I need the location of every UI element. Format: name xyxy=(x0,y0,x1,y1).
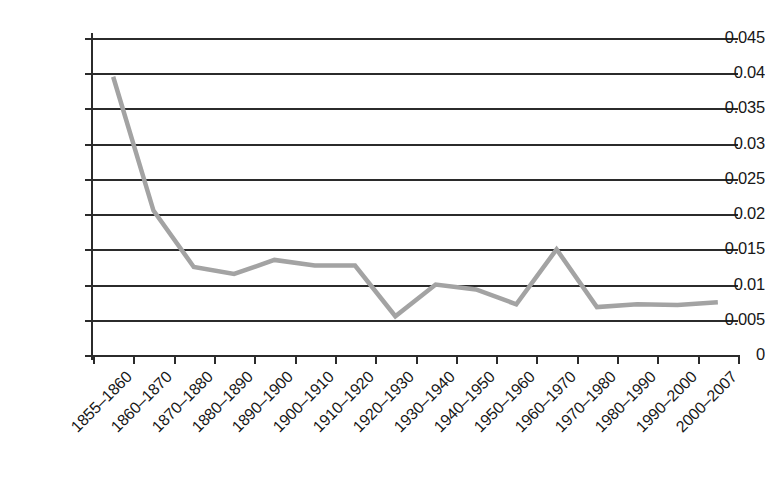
y-axis-line xyxy=(91,33,93,360)
x-tick-mark xyxy=(698,355,700,364)
y-tick-mark xyxy=(85,214,93,216)
gridline-0.015 xyxy=(93,249,738,251)
x-tick-mark xyxy=(214,355,216,364)
y-tick-label: 0.04 xyxy=(689,64,765,81)
gridline-0.005 xyxy=(93,320,738,322)
x-tick-mark xyxy=(174,355,176,364)
y-tick-label: 0.02 xyxy=(689,205,765,222)
y-tick-label: 0.01 xyxy=(689,276,765,293)
gridline-0.04 xyxy=(93,73,738,75)
x-tick-mark xyxy=(577,355,579,364)
x-tick-mark xyxy=(536,355,538,364)
y-tick-mark xyxy=(85,73,93,75)
y-tick-label: 0.035 xyxy=(689,99,765,116)
gridline-0.025 xyxy=(93,179,738,181)
gridline-0.02 xyxy=(93,214,738,216)
x-tick-mark xyxy=(657,355,659,364)
y-tick-mark xyxy=(85,320,93,322)
x-tick-mark xyxy=(254,355,256,364)
x-tick-mark xyxy=(375,355,377,364)
x-tick-mark xyxy=(617,355,619,364)
x-tick-mark xyxy=(456,355,458,364)
y-tick-label: 0.015 xyxy=(689,240,765,257)
plot-area xyxy=(93,38,738,355)
x-tick-mark xyxy=(295,355,297,364)
y-tick-mark xyxy=(85,285,93,287)
y-tick-mark xyxy=(85,144,93,146)
y-tick-label: 0.045 xyxy=(689,29,765,46)
y-tick-mark xyxy=(85,179,93,181)
gridline-0.035 xyxy=(93,108,738,110)
x-tick-mark xyxy=(133,355,135,364)
gridline-0.01 xyxy=(93,285,738,287)
gridline-0.03 xyxy=(93,144,738,146)
x-tick-mark xyxy=(93,355,95,364)
x-tick-mark xyxy=(738,355,740,364)
y-tick-label: 0.025 xyxy=(689,170,765,187)
line-chart: 0.0450.040.0350.030.0250.020.0150.010.00… xyxy=(0,0,765,479)
x-tick-mark xyxy=(496,355,498,364)
y-tick-mark xyxy=(85,249,93,251)
y-tick-label: 0.005 xyxy=(689,311,765,328)
y-tick-mark xyxy=(85,38,93,40)
y-tick-mark xyxy=(85,108,93,110)
x-tick-mark xyxy=(416,355,418,364)
gridline-0.045 xyxy=(93,38,738,40)
x-tick-mark xyxy=(335,355,337,364)
y-tick-label: 0.03 xyxy=(689,135,765,152)
